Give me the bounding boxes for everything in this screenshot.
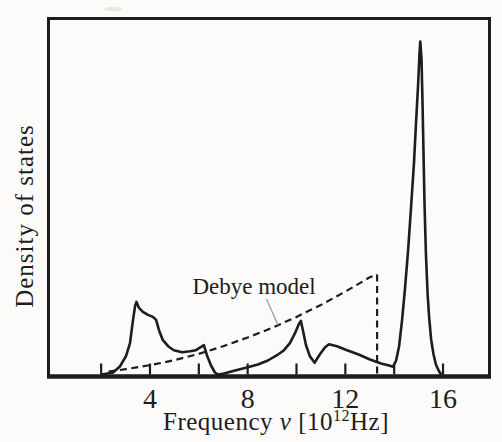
debye-model-label: Debye model <box>192 274 315 299</box>
x-tick-label-16: 16 <box>429 383 457 414</box>
x-axis-label: Frequency ν [1012Hz] <box>163 407 389 435</box>
scan-smudge <box>104 7 122 12</box>
chart-canvas: 481216 Debye model Density of states Fre… <box>0 0 502 442</box>
annotation-pointer-line <box>266 299 277 325</box>
y-axis-label: Density of states <box>11 124 38 308</box>
phonon-dos-figure: 481216 Debye model Density of states Fre… <box>0 0 502 442</box>
phonon-dos-curve <box>102 42 441 375</box>
x-tick-label-4: 4 <box>143 383 157 414</box>
